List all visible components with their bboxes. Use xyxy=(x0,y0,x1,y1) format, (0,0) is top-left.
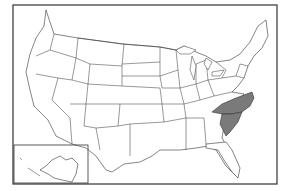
state-alaska xyxy=(40,156,78,182)
state-south-carolina[interactable] xyxy=(220,112,242,136)
us-map xyxy=(0,0,288,191)
aleutian-islands xyxy=(20,158,40,176)
